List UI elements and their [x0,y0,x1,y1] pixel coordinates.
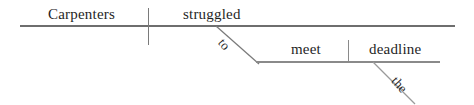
diagram-word-infinitive-verb: meet [291,42,321,57]
diagram-word-verb: struggled [183,7,241,22]
diagram-word-direct-object: deadline [369,42,421,57]
diagram-word-subject: Carpenters [48,7,115,22]
sentence-diagram: Carpenters struggled to meet deadline th… [0,0,474,105]
